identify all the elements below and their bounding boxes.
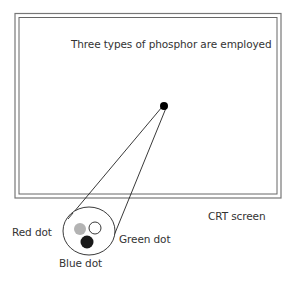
red-dot-label: Red dot [12, 226, 52, 238]
red-phosphor-dot [74, 223, 86, 235]
beam-point-dot [160, 102, 168, 110]
blue-phosphor-dot [81, 236, 94, 249]
green-phosphor-dot [89, 222, 101, 234]
beam-line-left [68, 107, 162, 219]
crt-screen-label: CRT screen [208, 210, 266, 222]
caption-text: Three types of phosphor are employed [71, 38, 272, 50]
blue-dot-label: Blue dot [59, 257, 102, 269]
beam-line-right [113, 108, 166, 238]
green-dot-label: Green dot [119, 233, 170, 245]
